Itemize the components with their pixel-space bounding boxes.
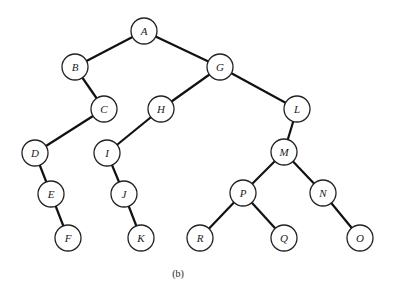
tree-node-k: K <box>128 225 154 251</box>
node-label: D <box>30 147 39 159</box>
tree-node-h: H <box>148 96 174 122</box>
tree-node-r: R <box>187 225 213 251</box>
tree-node-g: G <box>207 54 233 80</box>
node-label: L <box>293 103 300 115</box>
node-label: H <box>156 103 166 115</box>
tree-node-l: L <box>284 96 310 122</box>
node-label: Q <box>280 232 288 244</box>
tree-node-p: P <box>230 180 256 206</box>
tree-diagram: ABGCHLDIMEJPNFKRQO <box>0 0 394 290</box>
node-label: P <box>239 187 247 199</box>
tree-node-o: O <box>347 225 373 251</box>
node-label: O <box>356 232 364 244</box>
tree-node-e: E <box>38 181 64 207</box>
node-label: A <box>140 25 148 37</box>
node-label: M <box>278 146 289 158</box>
tree-node-i: I <box>94 140 120 166</box>
tree-node-d: D <box>22 140 48 166</box>
node-label: N <box>318 187 327 199</box>
tree-node-q: Q <box>271 225 297 251</box>
tree-node-a: A <box>131 18 157 44</box>
node-label: R <box>196 232 204 244</box>
figure-caption: (b) <box>0 268 356 279</box>
tree-node-n: N <box>310 180 336 206</box>
tree-node-j: J <box>111 181 137 207</box>
node-label: G <box>216 61 224 73</box>
tree-node-c: C <box>91 96 117 122</box>
tree-node-b: B <box>62 54 88 80</box>
tree-node-m: M <box>271 139 297 165</box>
tree-node-f: F <box>55 225 81 251</box>
nodes-layer: ABGCHLDIMEJPNFKRQO <box>22 18 373 251</box>
node-label: F <box>64 232 72 244</box>
node-label: C <box>100 103 108 115</box>
node-label: B <box>72 61 79 73</box>
node-label: K <box>136 232 145 244</box>
node-label: E <box>47 188 55 200</box>
